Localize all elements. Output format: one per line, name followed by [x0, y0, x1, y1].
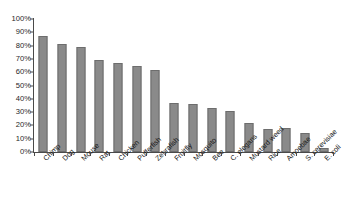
x-axis-category-label: Bee: [211, 148, 225, 162]
y-axis-tick-mark: [30, 85, 33, 86]
x-axis-tick-mark: [314, 152, 315, 156]
y-axis-tick-mark: [30, 58, 33, 59]
x-axis-tick-mark: [109, 152, 110, 156]
x-axis-tick-mark: [90, 152, 91, 156]
y-axis-tick-mark: [30, 98, 33, 99]
x-axis-category-label: Dog: [61, 148, 76, 163]
x-axis-tick-mark: [184, 152, 185, 156]
x-axis-tick-mark: [146, 152, 147, 156]
y-axis-tick-mark: [30, 138, 33, 139]
y-axis-tick-mark: [30, 19, 33, 20]
x-axis-tick-mark: [277, 152, 278, 156]
x-axis-tick-mark: [53, 152, 54, 156]
x-axis-tick-mark: [127, 152, 128, 156]
x-axis-tick-mark: [165, 152, 166, 156]
y-axis-tick-mark: [30, 32, 33, 33]
x-axis-tick-mark: [258, 152, 259, 156]
y-axis-tick-mark: [30, 125, 33, 126]
x-axis-tick-mark: [34, 152, 35, 156]
y-axis-tick-mark: [30, 152, 33, 153]
x-axis-tick-mark: [71, 152, 72, 156]
x-axis-tick-mark: [333, 152, 334, 156]
y-axis-tick-mark: [30, 45, 33, 46]
x-axis-tick-mark: [296, 152, 297, 156]
x-axis-category-label: Rice: [267, 147, 283, 163]
y-axis-tick-mark: [30, 112, 33, 113]
x-axis-tick-mark: [240, 152, 241, 156]
x-axis-tick-mark: [202, 152, 203, 156]
x-axis-tick-mark: [221, 152, 222, 156]
y-axis-tick-mark: [30, 72, 33, 73]
